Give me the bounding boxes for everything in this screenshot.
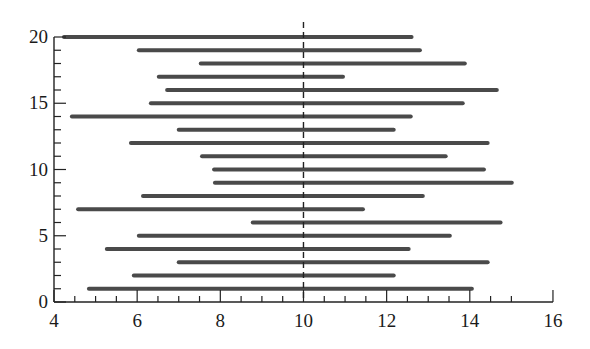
interval-bars (64, 37, 512, 289)
y-tick-label: 15 (29, 92, 48, 113)
y-tick-label: 5 (39, 225, 49, 246)
axes: 46810121416 05101520 (29, 26, 562, 331)
y-axis-ticks: 05101520 (29, 26, 66, 312)
interval-chart: 46810121416 05101520 (0, 0, 590, 349)
y-tick-label: 0 (39, 291, 49, 312)
x-tick-label: 8 (216, 310, 226, 331)
y-tick-label: 20 (29, 26, 48, 47)
x-tick-label: 12 (377, 310, 396, 331)
x-tick-label: 10 (294, 310, 313, 331)
x-tick-label: 14 (460, 310, 480, 331)
x-tick-label: 6 (132, 310, 142, 331)
x-tick-label: 4 (49, 310, 59, 331)
x-axis-ticks: 46810121416 (49, 290, 562, 331)
x-tick-label: 16 (543, 310, 562, 331)
y-tick-label: 10 (29, 159, 48, 180)
